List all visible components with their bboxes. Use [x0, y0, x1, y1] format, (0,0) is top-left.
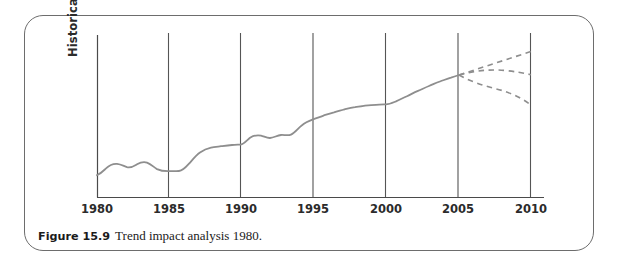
series-projected-high-line: [459, 52, 531, 76]
series-historical-line: [97, 75, 459, 175]
y-axis-label: Historical and projected value: [62, 0, 84, 57]
figure-container: Historical and projected value 1980 1985…: [0, 0, 619, 271]
figure-caption: Figure 15.9Trend impact analysis 1980.: [38, 228, 262, 244]
x-tick-label-2000: 2000: [358, 202, 414, 216]
figure-caption-label: Figure 15.9: [38, 230, 110, 243]
x-tick-label-2005: 2005: [430, 202, 486, 216]
x-tick-label-1985: 1985: [141, 202, 197, 216]
x-tick-label-2010: 2010: [503, 202, 559, 216]
series-projected-low-line: [459, 75, 531, 105]
x-tick-label-1980: 1980: [69, 202, 125, 216]
x-tick-label-1995: 1995: [285, 202, 341, 216]
figure-caption-text: Trend impact analysis 1980.: [110, 228, 262, 243]
gridlines: [169, 33, 531, 197]
x-tick-label-1990: 1990: [213, 202, 269, 216]
